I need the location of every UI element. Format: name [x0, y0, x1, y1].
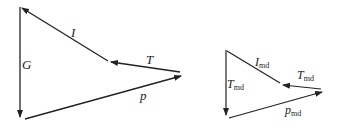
label-I: I — [70, 25, 76, 40]
label-T-md-left: Tmd — [227, 77, 244, 92]
label-p: p — [139, 88, 147, 103]
label-I-md-sub: md — [259, 61, 269, 70]
vector-I — [22, 8, 108, 61]
label-T: T — [146, 52, 154, 67]
label-T-md-left-sub: md — [234, 83, 244, 92]
vector-I-md — [227, 51, 280, 83]
vector-T-md-right — [283, 85, 321, 89]
label-T-md-right-sub: md — [304, 74, 314, 83]
label-p-md-main: p — [284, 103, 291, 117]
left-vector-triangle: I G T p — [20, 7, 181, 119]
vector-diagrams: I G T p Imd Tmd Tmd pmd — [0, 0, 339, 131]
label-T-md-right: Tmd — [297, 68, 314, 83]
label-I-md: Imd — [254, 55, 269, 70]
label-p-md: pmd — [284, 103, 301, 118]
right-vector-triangle: Imd Tmd Tmd pmd — [226, 50, 322, 118]
label-p-md-sub: md — [291, 109, 301, 118]
vector-p-md — [229, 92, 322, 118]
label-G: G — [22, 57, 32, 72]
vector-p — [25, 76, 181, 119]
